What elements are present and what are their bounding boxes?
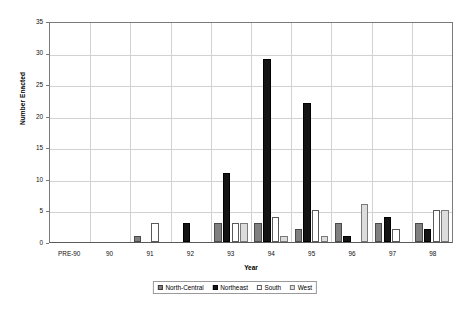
y-tick-label: 30: [17, 50, 43, 56]
bar-group: [90, 23, 130, 242]
y-tick-mark: [46, 243, 49, 244]
x-tick-label: 91: [130, 250, 170, 257]
legend-item[interactable]: West: [290, 284, 312, 291]
bar: [433, 210, 441, 242]
legend-swatch-icon: [290, 285, 295, 290]
x-tick-label: 96: [332, 250, 372, 257]
bar: [343, 236, 351, 242]
x-tick-label: 92: [170, 250, 210, 257]
bar: [303, 103, 311, 242]
bar-groups: [50, 23, 452, 242]
bar: [214, 223, 222, 242]
bar: [295, 229, 303, 242]
legend-item[interactable]: Northeast: [213, 284, 248, 291]
x-tick-label: 94: [251, 250, 291, 257]
x-tick-label: 97: [372, 250, 412, 257]
y-tick-label: 20: [17, 114, 43, 120]
bar: [441, 210, 449, 242]
bar-group: [251, 23, 291, 242]
bar: [384, 217, 392, 242]
plot-area: [49, 22, 453, 243]
y-tick-mark: [46, 54, 49, 55]
legend-swatch-icon: [213, 285, 218, 290]
bar-group: [372, 23, 412, 242]
legend-swatch-icon: [158, 285, 163, 290]
bar-group: [331, 23, 371, 242]
legend-label: South: [264, 284, 281, 291]
bar: [312, 210, 320, 242]
x-tick-label: 90: [89, 250, 129, 257]
y-tick-mark: [46, 117, 49, 118]
bar: [240, 223, 248, 242]
bar: [280, 236, 288, 242]
bar-group: [211, 23, 251, 242]
bar: [272, 217, 280, 242]
y-tick-mark: [46, 148, 49, 149]
legend-label: North-Central: [165, 284, 203, 291]
bar: [151, 223, 159, 242]
x-tick-label: 95: [291, 250, 331, 257]
bar: [183, 223, 191, 242]
y-tick-mark: [46, 180, 49, 181]
y-tick-label: 25: [17, 82, 43, 88]
x-tick-label: 93: [211, 250, 251, 257]
bar: [361, 204, 369, 242]
legend-swatch-icon: [257, 285, 262, 290]
bar: [392, 229, 400, 242]
bar: [424, 229, 432, 242]
bar-group: [412, 23, 452, 242]
bar-group: [50, 23, 90, 242]
bar: [223, 173, 231, 242]
x-tick-label: 98: [413, 250, 453, 257]
bar-group: [291, 23, 331, 242]
bar-group: [130, 23, 170, 242]
x-axis-title: Year: [49, 264, 453, 271]
y-tick-mark: [46, 85, 49, 86]
y-tick-label: 10: [17, 177, 43, 183]
bar-chart: Number Enacted 05101520253035 PRE-909091…: [0, 0, 470, 312]
y-tick-label: 5: [17, 208, 43, 214]
y-tick-mark: [46, 22, 49, 23]
bar-group: [171, 23, 211, 242]
x-axis-ticks: PRE-90909192939495969798: [49, 250, 453, 257]
x-tick-label: PRE-90: [49, 250, 89, 257]
chart-legend: North-CentralNortheastSouthWest: [153, 281, 317, 294]
y-tick-label: 15: [17, 145, 43, 151]
bar: [134, 236, 142, 242]
y-tick-label: 0: [17, 240, 43, 246]
legend-item[interactable]: North-Central: [158, 284, 204, 291]
bar: [335, 223, 343, 242]
bar: [375, 223, 383, 242]
bar: [263, 59, 271, 242]
y-tick-label: 35: [17, 19, 43, 25]
legend-label: West: [298, 284, 312, 291]
legend-label: Northeast: [220, 284, 248, 291]
bar: [321, 236, 329, 242]
y-axis-title: Number Enacted: [19, 54, 26, 144]
legend-item[interactable]: South: [257, 284, 281, 291]
bar: [415, 223, 423, 242]
bar: [232, 223, 240, 242]
bar: [254, 223, 262, 242]
y-tick-mark: [46, 211, 49, 212]
